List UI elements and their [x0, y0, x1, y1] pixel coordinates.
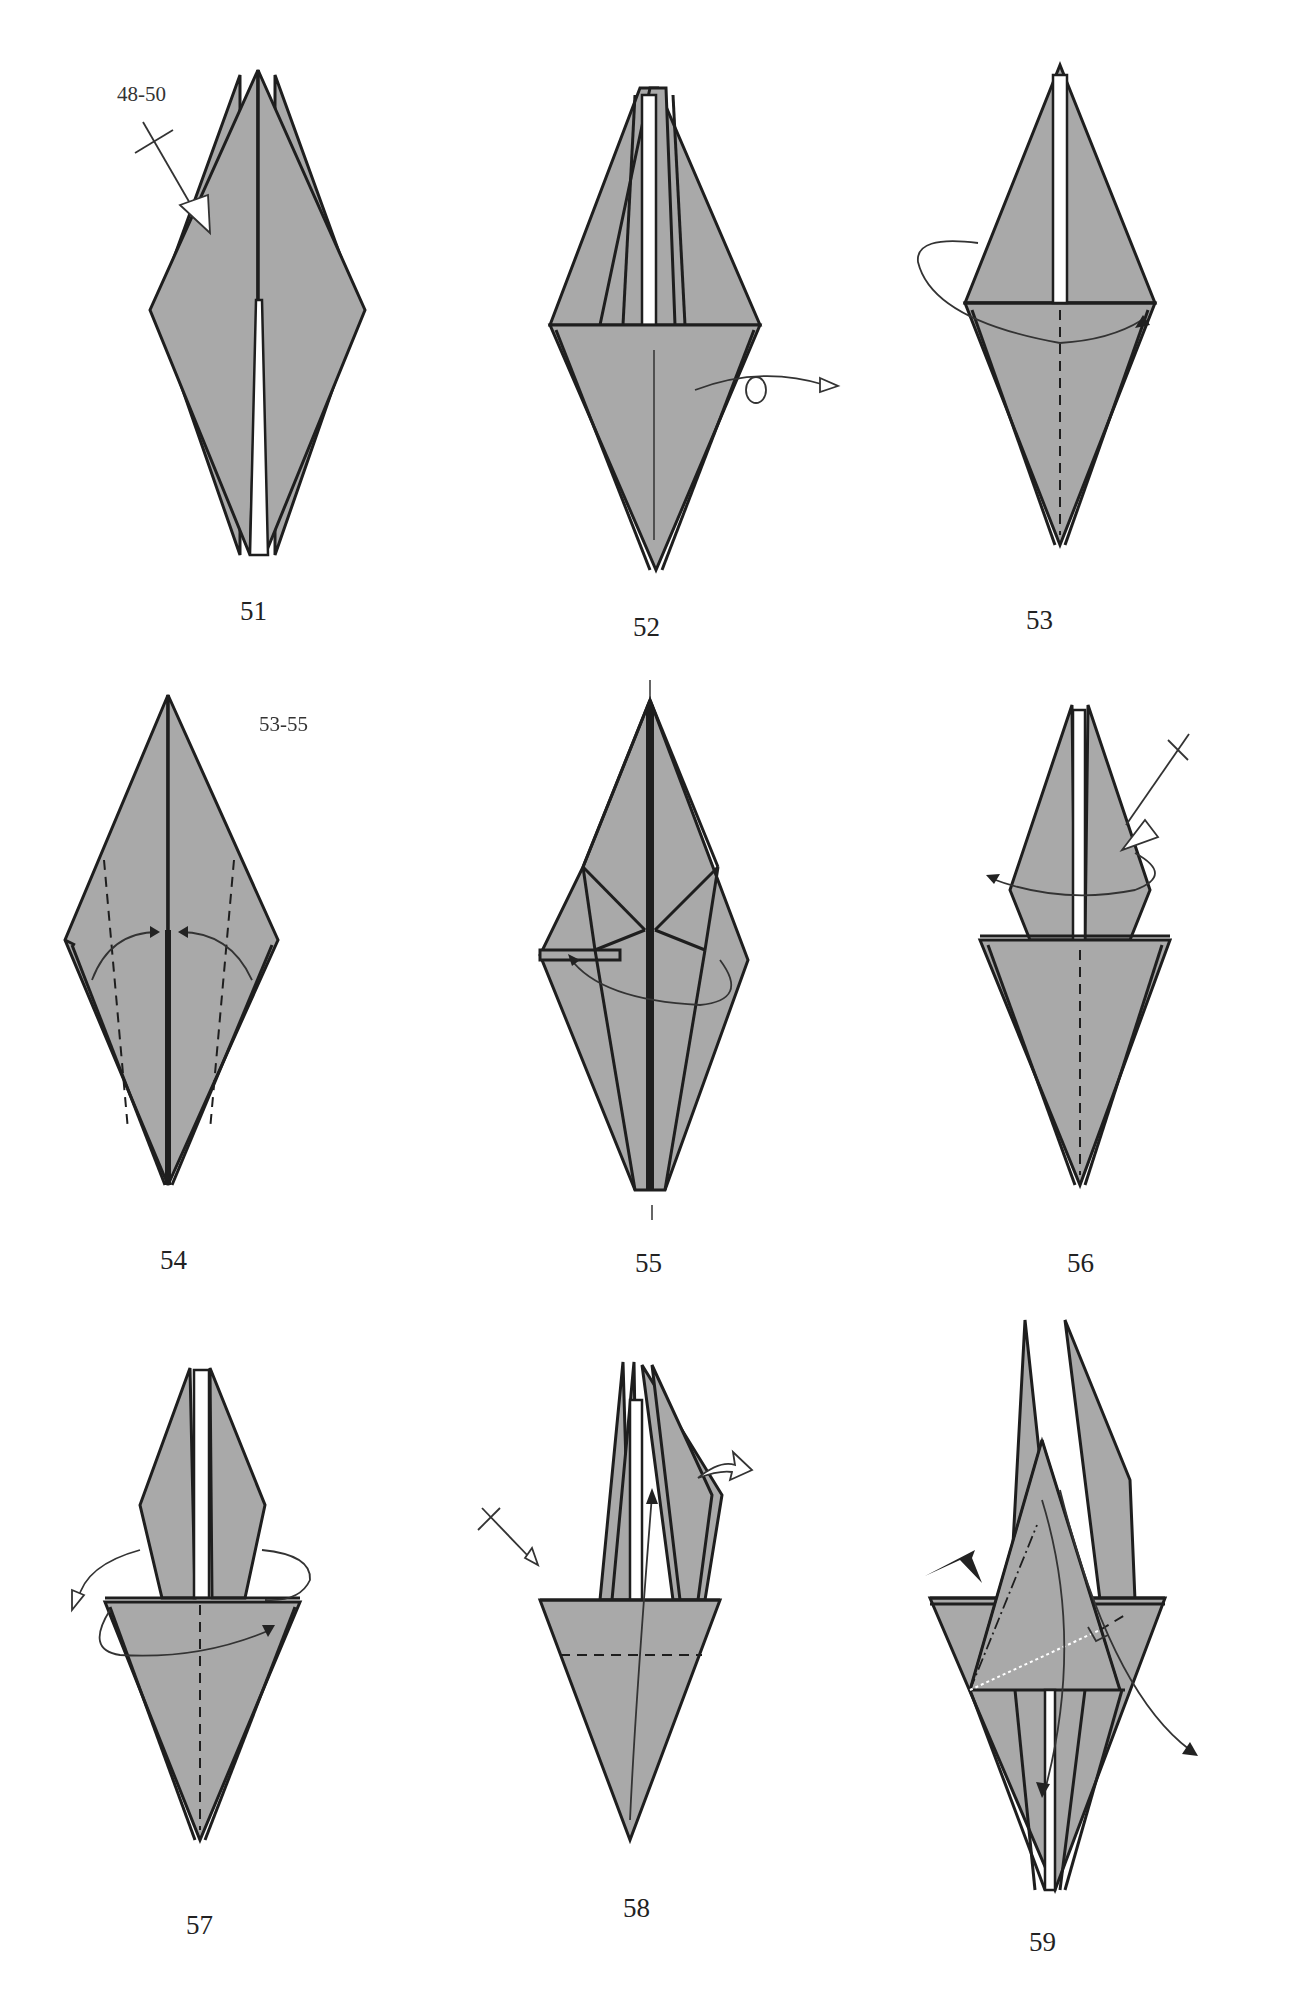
step-59-number: 59 [1029, 1927, 1056, 1958]
step-55-diagram [430, 660, 860, 1310]
step-59: 59 [860, 1310, 1293, 2000]
unfold-arrow-icon [698, 1452, 752, 1480]
step-54: 54 [0, 660, 430, 1310]
step-56-diagram [860, 660, 1293, 1310]
step-54-number: 54 [160, 1245, 187, 1276]
step-58: 58 [430, 1310, 860, 2000]
step-51-diagram [0, 0, 430, 640]
step-51-number: 51 [240, 596, 267, 627]
step-54-diagram [0, 660, 430, 1310]
step-57: 57 [0, 1310, 430, 2000]
step-56-number: 56 [1067, 1248, 1094, 1279]
step-57-diagram [0, 1310, 430, 2000]
repeat-steps-arrow-icon [135, 122, 210, 233]
step-56: 53-55 56 [860, 660, 1293, 1310]
step-51: 48-50 51 [0, 0, 430, 640]
step-53: 53 [860, 0, 1293, 660]
step-57-number: 57 [186, 1910, 213, 1941]
step-53-diagram [860, 0, 1293, 660]
step-55-number: 55 [635, 1248, 662, 1279]
step-51-ref-label: 48-50 [117, 82, 166, 107]
step-58-number: 58 [623, 1893, 650, 1924]
step-59-diagram [860, 1310, 1293, 2000]
step-52-number: 52 [633, 612, 660, 643]
step-55: 55 [430, 660, 860, 1310]
step-56-ref-label: 53-55 [259, 712, 308, 737]
step-52-diagram [430, 0, 860, 660]
sink-arrow-icon [925, 1550, 982, 1583]
step-52: 52 [430, 0, 860, 660]
repeat-arrow-icon [478, 1508, 538, 1565]
step-53-number: 53 [1026, 605, 1053, 636]
